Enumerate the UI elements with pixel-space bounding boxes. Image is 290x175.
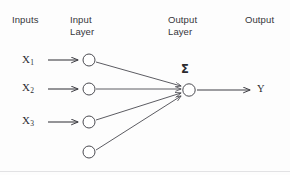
input-label-x2: X2 — [22, 81, 34, 93]
neural-network-diagram: Inputs Input Layer Output Layer Output X… — [0, 0, 290, 175]
input-label-x1: X1 — [22, 53, 34, 65]
column-header-output: Output — [245, 14, 274, 26]
input-node-bias — [83, 146, 95, 158]
input-label-x2-sub: 2 — [30, 86, 34, 95]
connection-x3-to-output — [96, 93, 181, 120]
column-header-inputs: Inputs — [12, 14, 38, 26]
connection-bias-to-output — [96, 96, 181, 150]
input-node-x3 — [83, 116, 95, 128]
input-label-x2-base: X — [22, 81, 30, 93]
input-node-x1 — [83, 54, 95, 66]
input-label-x3: X3 — [22, 114, 34, 126]
column-header-input-layer: Input Layer — [70, 14, 94, 37]
input-node-x2 — [83, 83, 95, 95]
column-header-output-layer: Output Layer — [168, 14, 197, 37]
input-label-x3-base: X — [22, 114, 30, 126]
output-label-y: Y — [257, 83, 265, 94]
input-label-x1-base: X — [22, 53, 30, 65]
input-label-x3-sub: 3 — [30, 119, 34, 128]
input-label-x1-sub: 1 — [30, 58, 34, 67]
summation-sigma-symbol: Σ — [181, 62, 189, 76]
connection-x1-to-output — [96, 62, 181, 86]
network-graphics — [0, 0, 290, 175]
output-neuron-node — [183, 84, 195, 96]
